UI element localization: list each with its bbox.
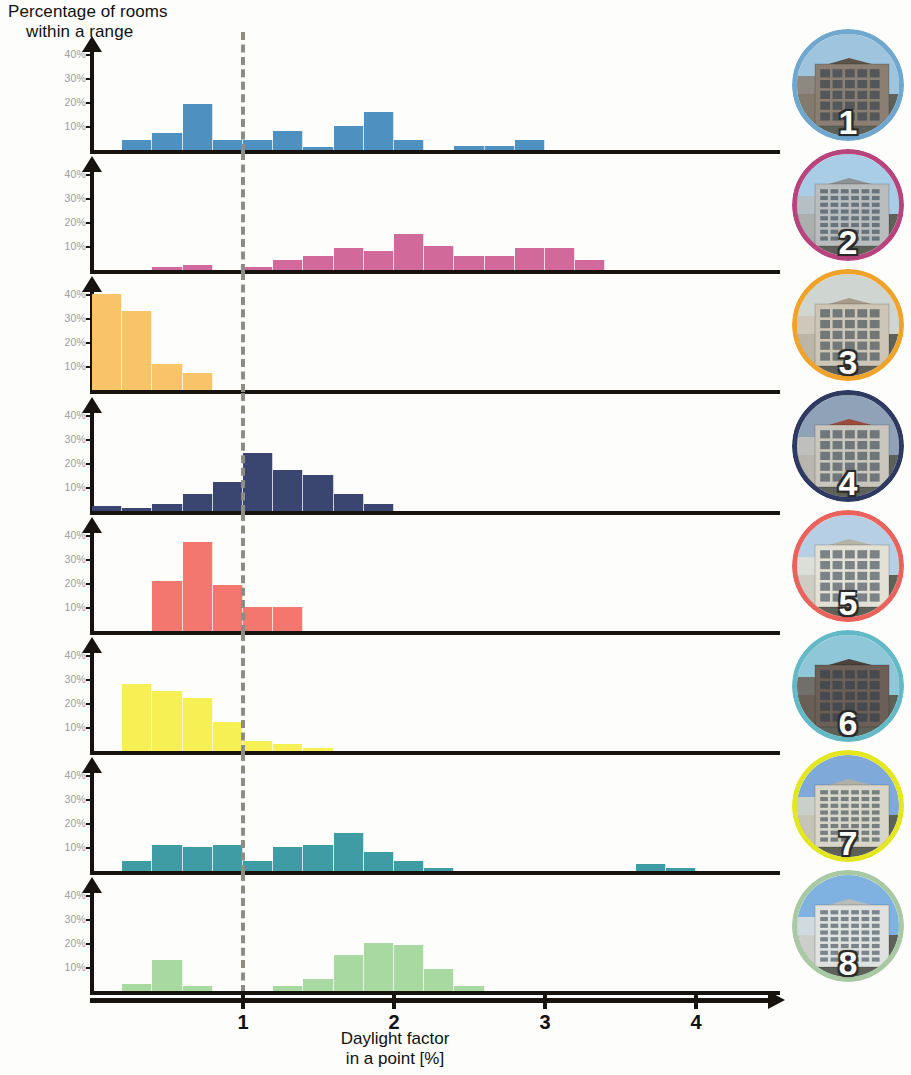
histogram-bar (243, 607, 273, 631)
thumbnail-number-label: 4 (792, 466, 904, 500)
histogram-bar (485, 256, 515, 270)
histogram-bar (394, 945, 424, 991)
histogram-panel-4: 10%20%30%40% (0, 393, 790, 513)
histogram-bar (334, 494, 364, 511)
histogram-panel-7: 10%20%30%40% (0, 753, 790, 873)
thumbnail-number-label: 6 (792, 706, 904, 740)
histogram-bar (454, 146, 484, 150)
histogram-bar (636, 864, 666, 871)
histogram-bar (183, 265, 213, 270)
histogram-bar (122, 984, 152, 991)
histogram-bar (183, 104, 213, 150)
building-thumbnail-6[interactable]: 6 (792, 630, 904, 742)
y-axis-line (90, 531, 94, 633)
histogram-bar (273, 847, 303, 871)
reference-line-df-1 (241, 633, 245, 753)
histogram-bar (273, 744, 303, 751)
histogram-bar (334, 833, 364, 871)
histogram-bar (152, 364, 182, 390)
y-tick-label: 20% (64, 817, 86, 829)
histogram-bar (334, 955, 364, 991)
histogram-bar (303, 475, 333, 511)
x-tick-mark (241, 991, 245, 1009)
histogram-bar (243, 267, 273, 270)
histogram-bar (122, 311, 152, 390)
histogram-bar (183, 373, 213, 390)
x-tick-mark (392, 991, 396, 1009)
y-axis-line (90, 170, 94, 272)
histogram-bar (485, 146, 515, 150)
histogram-bar (183, 494, 213, 511)
histogram-bar (424, 868, 454, 871)
y-tick-label: 20% (64, 697, 86, 709)
building-thumbnail-7[interactable]: 7 (792, 750, 904, 862)
histogram-bar (183, 986, 213, 991)
histogram-bar (303, 748, 333, 751)
y-tick-label: 30% (64, 312, 86, 324)
reference-line-df-1 (241, 873, 245, 993)
y-tick-group: 10%20%30%40% (40, 513, 86, 633)
histogram-panel-2: 10%20%30%40% (0, 152, 790, 272)
histogram-bar (303, 979, 333, 991)
histogram-bar (122, 508, 152, 511)
reference-line-df-1 (241, 753, 245, 873)
y-tick-label: 10% (64, 481, 86, 493)
thumbnail-number-label: 3 (792, 345, 904, 379)
y-axis-arrow-icon (82, 637, 102, 653)
histogram-bar (515, 140, 545, 150)
histogram-bar (213, 585, 243, 631)
histogram-bar (364, 852, 394, 871)
reference-line-df-1 (241, 272, 245, 392)
histogram-bar (303, 256, 333, 270)
y-tick-group: 10%20%30%40% (40, 32, 86, 152)
histogram-bar (183, 542, 213, 631)
histogram-bar (92, 506, 122, 511)
histogram-bar (92, 294, 122, 390)
building-thumbnail-1[interactable]: 1 (792, 29, 904, 141)
histogram-bar (303, 147, 333, 150)
histogram-bar (213, 845, 243, 871)
histogram-bar (213, 482, 243, 511)
y-tick-label: 20% (64, 937, 86, 949)
histogram-bar (243, 140, 273, 150)
histogram-panel-6: 10%20%30%40% (0, 633, 790, 753)
reference-line-df-1 (241, 152, 245, 272)
building-thumbnail-2[interactable]: 2 (792, 149, 904, 261)
histogram-bar (183, 698, 213, 751)
y-axis-arrow-icon (82, 36, 102, 52)
y-tick-group: 10%20%30%40% (40, 753, 86, 873)
histogram-bar (152, 267, 182, 270)
y-tick-label: 10% (64, 120, 86, 132)
y-axis-arrow-icon (82, 517, 102, 533)
y-tick-label: 10% (64, 961, 86, 973)
histogram-bar (303, 845, 333, 871)
histogram-panel-1: 10%20%30%40% (0, 32, 790, 152)
y-axis-arrow-icon (82, 757, 102, 773)
y-tick-label: 30% (64, 673, 86, 685)
histogram-bar (334, 126, 364, 150)
building-thumbnail-3[interactable]: 3 (792, 269, 904, 381)
building-thumbnail-5[interactable]: 5 (792, 510, 904, 622)
thumbnail-number-label: 2 (792, 225, 904, 259)
y-tick-label: 20% (64, 577, 86, 589)
y-tick-label: 30% (64, 913, 86, 925)
thumbnail-number-label: 5 (792, 586, 904, 620)
building-thumbnail-8[interactable]: 8 (792, 870, 904, 982)
y-tick-group: 10%20%30%40% (40, 152, 86, 272)
building-thumbnail-4[interactable]: 4 (792, 390, 904, 502)
histogram-bar (515, 248, 545, 270)
histogram-bar (243, 861, 273, 871)
histogram-bar (243, 741, 273, 751)
y-axis-line (90, 411, 94, 513)
y-tick-label: 10% (64, 360, 86, 372)
y-tick-label: 20% (64, 96, 86, 108)
histogram-bar (152, 691, 182, 751)
reference-line-df-1 (241, 393, 245, 513)
y-tick-label: 20% (64, 216, 86, 228)
y-tick-group: 10%20%30%40% (40, 272, 86, 392)
x-axis-title-line1: Daylight factor (341, 1029, 450, 1048)
thumbnail-number-label: 7 (792, 826, 904, 860)
histogram-bar (243, 453, 273, 511)
histogram-bar (394, 861, 424, 871)
x-axis-arrow-icon (768, 991, 785, 1009)
